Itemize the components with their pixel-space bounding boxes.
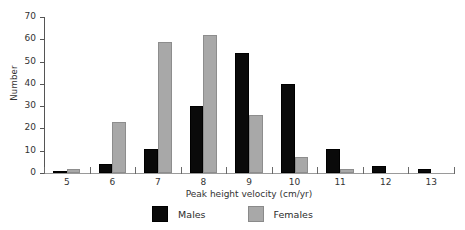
y-tick-label: 20 [14, 123, 36, 132]
bar-males-11 [326, 149, 340, 174]
legend-swatch-females-icon [248, 206, 264, 222]
bar-females-5 [67, 169, 81, 173]
x-tick-label: 9 [234, 177, 264, 187]
y-tick-label: 0 [14, 168, 36, 177]
bar-males-13 [418, 169, 432, 173]
legend-item-males: Males [152, 206, 205, 222]
bar-females-10 [295, 157, 309, 173]
x-tick-label: 12 [371, 177, 401, 187]
chart-legend: Males Females [0, 206, 465, 222]
x-tick-label: 8 [188, 177, 218, 187]
bar-females-8 [203, 35, 217, 173]
legend-item-females: Females [248, 206, 313, 222]
bars-layer [44, 17, 454, 173]
plot-area: Number 010203040506070 5678910111213 Pea… [0, 0, 465, 196]
x-tick-label: 13 [416, 177, 446, 187]
x-tick-label: 10 [280, 177, 310, 187]
bar-males-5 [53, 171, 67, 173]
bar-females-11 [340, 169, 354, 173]
x-axis-line [44, 173, 454, 174]
legend-label-females: Females [274, 209, 313, 220]
x-tick-mark [454, 167, 455, 174]
bar-males-9 [235, 53, 249, 173]
y-tick-label: 10 [14, 146, 36, 155]
legend-swatch-males-icon [152, 206, 168, 222]
x-tick-label: 5 [52, 177, 82, 187]
x-tick-label: 7 [143, 177, 173, 187]
bar-females-6 [112, 122, 126, 173]
bar-males-12 [372, 166, 386, 173]
y-tick-label: 60 [14, 34, 36, 43]
x-tick-label: 11 [325, 177, 355, 187]
bar-females-7 [158, 42, 172, 173]
y-tick-label: 50 [14, 57, 36, 66]
x-axis-title: Peak height velocity (cm/yr) [44, 189, 454, 199]
bar-males-8 [190, 106, 204, 173]
bar-males-10 [281, 84, 295, 173]
x-tick-label: 6 [97, 177, 127, 187]
bar-females-9 [249, 115, 263, 173]
bar-males-7 [144, 149, 158, 174]
peak-height-velocity-histogram: Number 010203040506070 5678910111213 Pea… [0, 0, 465, 230]
y-tick-label: 30 [14, 101, 36, 110]
y-tick-label: 70 [14, 12, 36, 21]
bar-males-6 [99, 164, 113, 173]
legend-label-males: Males [178, 209, 205, 220]
y-tick-label: 40 [14, 79, 36, 88]
